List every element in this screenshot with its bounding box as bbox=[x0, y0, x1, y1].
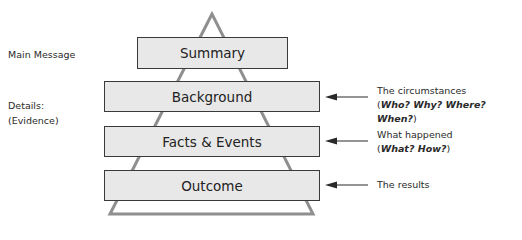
background-box-label: Background bbox=[172, 89, 253, 105]
arrow-outcome bbox=[325, 182, 368, 189]
facts-events-box-label: Facts & Events bbox=[162, 134, 261, 150]
details-label-line1: Details: bbox=[8, 98, 59, 113]
results-line1: The results bbox=[377, 178, 430, 192]
facts-events-box: Facts & Events bbox=[104, 126, 320, 157]
circumstances-annotation: The circumstances (Who? Why? Where? When… bbox=[377, 84, 522, 126]
results-annotation: The results bbox=[377, 178, 430, 192]
arrow-facts bbox=[325, 138, 368, 145]
summary-box-label: Summary bbox=[180, 45, 245, 61]
what-happened-annotation: What happened (What? How?) bbox=[377, 128, 453, 156]
outcome-box: Outcome bbox=[104, 170, 320, 201]
circumstances-line2: (Who? Why? Where? When?) bbox=[377, 98, 522, 126]
circumstances-line1: The circumstances bbox=[377, 84, 522, 98]
what-happened-line2: (What? How?) bbox=[377, 142, 453, 156]
what-happened-line1: What happened bbox=[377, 128, 453, 142]
details-label-line2: (Evidence) bbox=[8, 113, 59, 128]
details-label: Details: (Evidence) bbox=[8, 98, 59, 128]
summary-box: Summary bbox=[137, 37, 288, 69]
background-box: Background bbox=[104, 81, 320, 112]
main-message-label: Main Message bbox=[8, 47, 75, 62]
outcome-box-label: Outcome bbox=[181, 178, 243, 194]
arrow-background bbox=[325, 94, 368, 101]
